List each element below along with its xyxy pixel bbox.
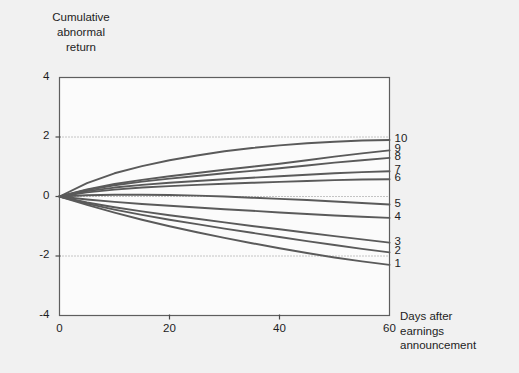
series-label-5: 5 bbox=[395, 197, 417, 209]
y-tick-label: -2 bbox=[28, 248, 50, 260]
series-label-2: 2 bbox=[395, 244, 417, 256]
series-label-1: 1 bbox=[395, 257, 417, 269]
y-tick-label: 2 bbox=[28, 129, 50, 141]
series-label-8: 8 bbox=[395, 150, 417, 162]
y-tick-label: 0 bbox=[28, 189, 50, 201]
x-tick-label: 0 bbox=[47, 322, 73, 334]
x-tick-label: 60 bbox=[377, 322, 403, 334]
plot-canvas bbox=[0, 0, 519, 373]
chart-figure: Cumulative abnormal return Days after ea… bbox=[0, 0, 519, 373]
x-tick-label: 40 bbox=[267, 322, 293, 334]
y-tick-label: -4 bbox=[28, 308, 50, 320]
x-tick-label: 20 bbox=[157, 322, 183, 334]
series-label-6: 6 bbox=[395, 171, 417, 183]
series-label-4: 4 bbox=[395, 210, 417, 222]
y-tick-label: 4 bbox=[28, 70, 50, 82]
